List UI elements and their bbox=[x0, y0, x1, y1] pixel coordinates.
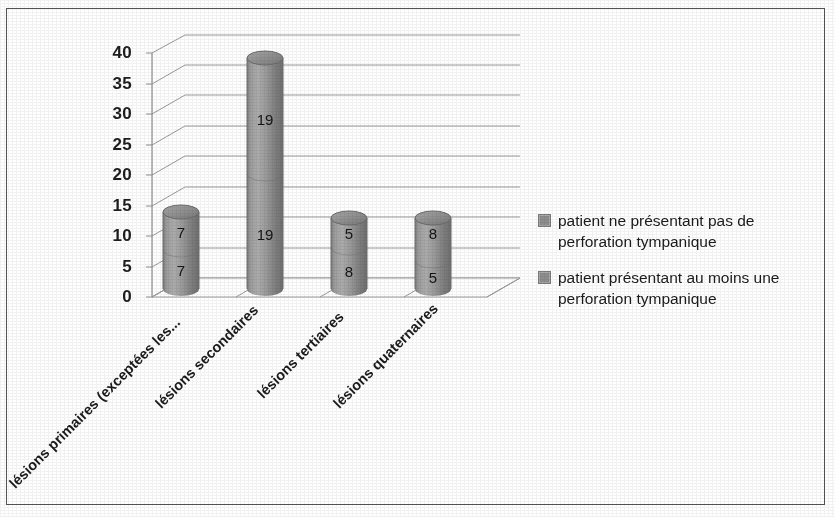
legend-swatch-icon bbox=[538, 214, 551, 227]
data-label-b1-lower: 19 bbox=[245, 226, 285, 243]
y-tick-40: 40 bbox=[90, 43, 132, 63]
y-tick-30: 30 bbox=[90, 104, 132, 124]
data-label-b0-upper: 7 bbox=[161, 224, 201, 241]
y-tick-15: 15 bbox=[90, 196, 132, 216]
chart-area: 40 35 30 25 20 15 10 5 0 7 7 19 19 5 8 8… bbox=[0, 0, 835, 517]
bar-cap bbox=[247, 51, 283, 65]
legend-swatch-icon bbox=[538, 271, 551, 284]
bar-texture bbox=[247, 58, 283, 296]
bar-group-lesions-secondaires[interactable] bbox=[247, 51, 283, 296]
y-tick-10: 10 bbox=[90, 226, 132, 246]
data-label-b2-upper: 5 bbox=[329, 225, 369, 242]
data-label-b1-upper: 19 bbox=[245, 111, 285, 128]
y-tick-5: 5 bbox=[90, 257, 132, 277]
bar-cap bbox=[331, 211, 367, 225]
legend-item-with-perforation[interactable]: patient présentant au moins une perforat… bbox=[538, 267, 828, 310]
data-label-b3-lower: 5 bbox=[413, 269, 453, 286]
data-label-b3-upper: 8 bbox=[413, 225, 453, 242]
y-tick-0: 0 bbox=[90, 287, 132, 307]
legend-label: patient ne présentant pas de perforation… bbox=[558, 210, 816, 253]
data-label-b2-lower: 8 bbox=[329, 263, 369, 280]
bar-group-lesions-primaires[interactable] bbox=[163, 205, 199, 296]
y-tick-35: 35 bbox=[90, 74, 132, 94]
bar-cap bbox=[163, 205, 199, 219]
chart-legend: patient ne présentant pas de perforation… bbox=[538, 210, 828, 324]
y-axis-ticks bbox=[146, 53, 152, 297]
legend-item-no-perforation[interactable]: patient ne présentant pas de perforation… bbox=[538, 210, 828, 253]
data-label-b0-lower: 7 bbox=[161, 262, 201, 279]
bar-cap bbox=[415, 211, 451, 225]
y-tick-20: 20 bbox=[90, 165, 132, 185]
y-tick-25: 25 bbox=[90, 135, 132, 155]
bar-group-lesions-tertiaires[interactable] bbox=[331, 211, 367, 296]
legend-label: patient présentant au moins une perforat… bbox=[558, 267, 816, 310]
